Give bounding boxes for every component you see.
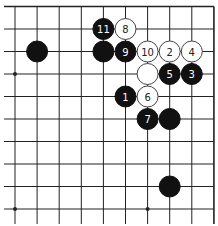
move-number: 7 <box>144 114 150 125</box>
black-stone <box>159 109 180 130</box>
stone-disc <box>93 41 114 62</box>
white-stone: 10 <box>137 41 158 62</box>
move-number: 6 <box>144 92 150 103</box>
stones: 1189102453167 <box>27 19 203 198</box>
black-stone: 5 <box>159 64 180 85</box>
white-stone: 4 <box>181 41 202 62</box>
black-stone: 1 <box>115 86 136 107</box>
stone-disc <box>159 109 180 130</box>
move-number: 4 <box>189 47 195 58</box>
white-stone <box>137 64 158 85</box>
white-stone: 6 <box>137 86 158 107</box>
black-stone: 7 <box>137 109 158 130</box>
move-number: 5 <box>167 69 173 80</box>
black-stone: 9 <box>115 41 136 62</box>
white-stone: 2 <box>159 41 180 62</box>
black-stone: 11 <box>93 19 114 40</box>
move-number: 9 <box>122 47 128 58</box>
go-board: 1189102453167 <box>0 0 218 226</box>
move-number: 1 <box>122 92 128 103</box>
move-number: 2 <box>167 47 173 58</box>
stone-disc <box>27 41 48 62</box>
black-stone <box>27 41 48 62</box>
move-number: 10 <box>141 47 154 58</box>
star-point <box>146 207 150 211</box>
stone-disc <box>159 176 180 197</box>
move-number: 8 <box>122 24 128 35</box>
black-stone: 3 <box>181 64 202 85</box>
star-point <box>13 72 17 76</box>
star-point <box>13 207 17 211</box>
stone-disc <box>137 64 158 85</box>
black-stone <box>93 41 114 62</box>
move-number: 3 <box>189 69 195 80</box>
black-stone <box>159 176 180 197</box>
move-number: 11 <box>97 24 110 35</box>
white-stone: 8 <box>115 19 136 40</box>
board-grid <box>4 7 214 225</box>
